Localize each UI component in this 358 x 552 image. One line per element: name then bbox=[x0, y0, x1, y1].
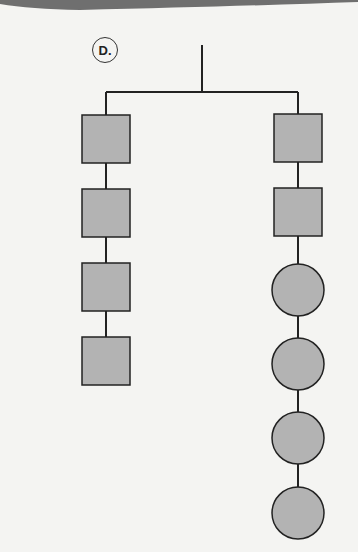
right-circle-3 bbox=[272, 412, 324, 464]
right-square-2 bbox=[274, 188, 322, 236]
right-circle-2 bbox=[272, 338, 324, 390]
left-square-4 bbox=[82, 337, 130, 385]
mobile-diagram bbox=[0, 0, 358, 552]
left-square-2 bbox=[82, 189, 130, 237]
right-circle-1 bbox=[272, 264, 324, 316]
right-square-1 bbox=[274, 114, 322, 162]
left-square-3 bbox=[82, 263, 130, 311]
left-square-1 bbox=[82, 115, 130, 163]
right-circle-4 bbox=[272, 487, 324, 539]
